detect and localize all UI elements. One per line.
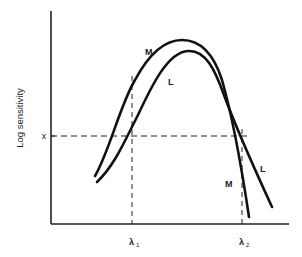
svg-text:2: 2 <box>246 242 250 248</box>
curve-M-label-bottom: M <box>225 179 233 189</box>
lambda2-label: λ 2 <box>239 237 250 248</box>
sensitivity-diagram: Log sensitivity x M L M L λ 1 λ 2 <box>0 0 302 257</box>
lambda1-label: λ 1 <box>129 237 140 248</box>
curve-L-label-bottom: L <box>260 164 266 174</box>
svg-text:1: 1 <box>136 242 140 248</box>
y-axis-label: Log sensitivity <box>14 88 25 148</box>
svg-text:λ: λ <box>129 237 134 247</box>
curve-M-label-top: M <box>145 47 153 57</box>
curve-L <box>97 51 272 207</box>
x-level-label: x <box>42 131 47 141</box>
svg-text:λ: λ <box>239 237 244 247</box>
curve-M <box>95 40 249 217</box>
curve-L-label-top: L <box>168 77 174 87</box>
